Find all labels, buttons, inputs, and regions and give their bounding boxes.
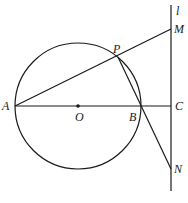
label-c: C — [175, 99, 184, 113]
label-o: O — [75, 110, 84, 124]
segment-am — [15, 29, 171, 106]
label-n: N — [173, 162, 183, 176]
label-m: M — [173, 22, 185, 36]
label-p: P — [112, 42, 121, 56]
label-a: A — [1, 99, 10, 113]
geometry-diagram: A O B C P M N l — [0, 0, 188, 203]
label-b: B — [129, 110, 137, 124]
center-point-o — [76, 104, 80, 108]
label-l: l — [176, 4, 180, 18]
segment-pn — [118, 57, 171, 169]
